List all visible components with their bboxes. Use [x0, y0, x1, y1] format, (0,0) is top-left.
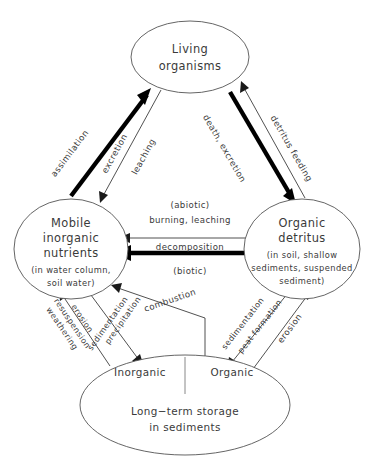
label-erosion-right: erosion: [275, 312, 304, 345]
detritus-sub-line1: (in soil, shallow: [267, 250, 338, 260]
label-leaching: leaching: [129, 137, 157, 176]
detritus-title-line2: detritus: [278, 231, 325, 245]
storage-title-line1: Long−term storage: [131, 405, 239, 417]
node-living-organisms: Living organisms: [131, 21, 249, 93]
mobile-title-line1: Mobile: [51, 216, 91, 230]
node-long-term-storage: Inorganic Organic Long−term storage in s…: [80, 355, 290, 455]
mobile-title-line2: inorganic: [43, 231, 99, 245]
edge-detritus-feeding: [240, 81, 305, 198]
label-death-excretion: death, excretion: [201, 113, 248, 184]
nutrient-cycle-diagram: Living organisms Mobile inorganic nutrie…: [0, 0, 374, 466]
label-assimilation: assimilation: [49, 128, 91, 179]
mobile-title-line3: nutrients: [44, 246, 99, 260]
diagram-canvas: Living organisms Mobile inorganic nutrie…: [0, 0, 374, 466]
storage-compartment-organic: Organic: [210, 366, 253, 378]
label-abiotic: (abiotic): [170, 200, 209, 210]
mobile-sub-line2: soil water): [47, 278, 95, 288]
label-decomposition: decomposition: [156, 242, 224, 252]
detritus-title-line1: Organic: [278, 216, 325, 230]
storage-compartment-inorganic: Inorganic: [114, 366, 166, 378]
living-title-line2: organisms: [159, 59, 222, 73]
node-organic-detritus: Organic detritus (in soil, shallow sedim…: [244, 199, 360, 299]
node-mobile-inorganic-nutrients: Mobile inorganic nutrients (in water col…: [14, 199, 128, 299]
detritus-sub-line2: sediments, suspended: [251, 263, 352, 273]
label-biotic: (biotic): [173, 266, 207, 276]
label-combustion: combustion: [143, 287, 198, 314]
mobile-sub-line1: (in water column,: [31, 265, 111, 275]
storage-title-line2: in sediments: [149, 421, 220, 433]
living-title-line1: Living: [172, 42, 208, 56]
label-burning-leaching: burning, leaching: [149, 215, 231, 225]
detritus-sub-line3: sediment): [279, 276, 325, 286]
